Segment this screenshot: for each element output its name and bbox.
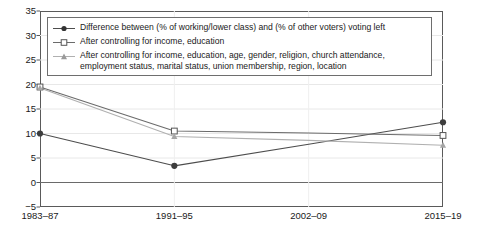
legend-item-0: Difference between (% of working/lower c…	[52, 22, 426, 34]
legend-label-1: After controlling for income, education	[80, 36, 224, 47]
data-point-marker-square	[440, 133, 446, 139]
legend-label-2: After controlling for income, education,…	[80, 50, 426, 71]
data-point-marker-circle	[440, 119, 446, 125]
data-point-marker-circle	[37, 130, 43, 136]
filled-circle-marker-icon	[52, 23, 76, 34]
series-line-2	[40, 88, 443, 145]
legend-item-2: After controlling for income, education,…	[52, 50, 426, 71]
legend-item-1: After controlling for income, education	[52, 36, 426, 48]
data-point-marker-circle	[171, 163, 177, 169]
series-line-0	[40, 122, 443, 166]
data-point-marker-square	[171, 128, 177, 134]
open-square-marker-icon	[52, 37, 76, 48]
legend-label-0: Difference between (% of working/lower c…	[80, 22, 385, 33]
filled-triangle-marker-icon	[52, 51, 76, 62]
chart-figure: 35302520151050−5 1983–871991–952002–0920…	[0, 0, 481, 246]
series-line-1	[40, 87, 443, 136]
chart-legend: Difference between (% of working/lower c…	[47, 17, 432, 76]
